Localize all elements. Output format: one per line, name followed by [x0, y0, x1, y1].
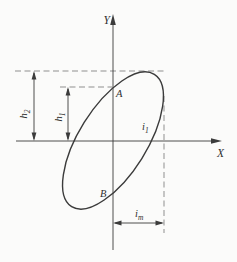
point-b-label: B: [100, 188, 107, 199]
ellipse-diagram: Y X A B h2 h1 i1 im: [0, 0, 237, 262]
figure-container: Y X A B h2 h1 i1 im: [0, 0, 237, 262]
point-a-label: A: [115, 88, 123, 99]
x-axis-label: X: [216, 147, 225, 159]
